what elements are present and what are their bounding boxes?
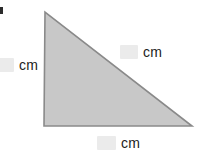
- triangle-shape: [44, 12, 192, 126]
- hypotenuse-unit-label: cm: [143, 45, 162, 59]
- bottom-leg-answer-input[interactable]: [97, 136, 116, 150]
- left-leg-unit-label: cm: [19, 58, 38, 72]
- figure-canvas: cm cm cm: [0, 0, 201, 161]
- left-leg-answer-input[interactable]: [0, 58, 14, 72]
- hypotenuse-measurement-label: cm: [120, 45, 162, 59]
- bottom-leg-unit-label: cm: [121, 136, 140, 150]
- edge-artifact: [0, 7, 3, 14]
- left-leg-measurement-label: cm: [0, 58, 38, 72]
- hypotenuse-answer-input[interactable]: [120, 45, 138, 59]
- bottom-leg-measurement-label: cm: [97, 136, 140, 150]
